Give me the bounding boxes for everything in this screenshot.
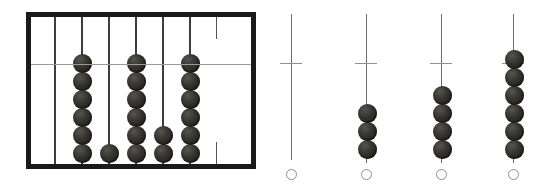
free-rod-group-2 bbox=[336, 0, 396, 184]
abacus-bead bbox=[73, 126, 92, 145]
free-rod-line-1 bbox=[291, 14, 292, 160]
free-rod-bead bbox=[505, 104, 524, 123]
abacus-crossbar bbox=[31, 64, 251, 65]
abacus-interior bbox=[31, 17, 251, 164]
abacus-rod-1 bbox=[54, 17, 56, 164]
free-rod-tick-3 bbox=[430, 63, 452, 64]
free-rod-bead bbox=[358, 140, 377, 159]
free-rod-bead bbox=[433, 104, 452, 123]
abacus-frame bbox=[26, 12, 256, 169]
free-rod-tick-1 bbox=[280, 63, 302, 64]
free-rod-bead bbox=[505, 68, 524, 87]
abacus-bead bbox=[127, 144, 146, 163]
abacus-rod-3 bbox=[108, 17, 110, 164]
abacus-bead bbox=[181, 72, 200, 91]
free-rod-bead bbox=[358, 122, 377, 141]
abacus-bead bbox=[127, 108, 146, 127]
abacus-bead bbox=[73, 90, 92, 109]
abacus-bead bbox=[100, 144, 119, 163]
abacus-bead bbox=[73, 144, 92, 163]
free-rod-group-4 bbox=[483, 0, 543, 184]
abacus-rod-7-stub-top bbox=[216, 17, 217, 39]
free-rod-hollow-circle-4 bbox=[508, 169, 519, 180]
abacus-bead bbox=[181, 126, 200, 145]
figure-canvas bbox=[0, 0, 550, 184]
free-rod-bead bbox=[433, 122, 452, 141]
free-rod-tick-2 bbox=[355, 63, 377, 64]
free-rod-hollow-circle-2 bbox=[361, 169, 372, 180]
abacus-bead bbox=[181, 108, 200, 127]
free-rod-bead bbox=[505, 50, 524, 69]
free-rod-hollow-circle-3 bbox=[436, 169, 447, 180]
abacus-bead bbox=[154, 144, 173, 163]
free-rod-bead bbox=[433, 140, 452, 159]
free-rod-group-3 bbox=[411, 0, 471, 184]
free-rod-bead bbox=[505, 122, 524, 141]
free-rod-group-1 bbox=[261, 0, 321, 184]
abacus-bead bbox=[127, 72, 146, 91]
abacus-bead bbox=[73, 72, 92, 91]
abacus-bead bbox=[181, 90, 200, 109]
free-rod-hollow-circle-1 bbox=[286, 169, 297, 180]
abacus-bead bbox=[181, 144, 200, 163]
abacus-bead bbox=[127, 90, 146, 109]
free-rod-bead bbox=[505, 86, 524, 105]
abacus-bead bbox=[127, 126, 146, 145]
free-rod-bead bbox=[358, 104, 377, 123]
free-rod-bead bbox=[433, 86, 452, 105]
abacus-bead bbox=[154, 126, 173, 145]
abacus-bead bbox=[73, 108, 92, 127]
abacus-rod-7-stub-bottom bbox=[216, 142, 217, 164]
free-rod-bead bbox=[505, 140, 524, 159]
